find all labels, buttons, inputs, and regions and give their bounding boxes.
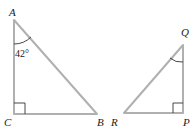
triangle-pqr: Q R P [110,26,190,128]
vertex-label-b: B [97,116,104,128]
vertex-label-p: P [182,116,190,128]
triangle-abc: A C B 42° [4,6,104,128]
vertex-label-r: R [110,116,118,128]
right-angle-marker-c [14,103,25,114]
angle-label-a: 42° [15,48,29,59]
vertex-label-c: C [4,116,12,128]
right-angle-marker-p [173,103,183,113]
angle-arc-a [14,37,31,44]
vertex-label-a: A [8,6,16,18]
vertex-label-q: Q [181,26,189,38]
diagram-canvas: A C B 42° Q R P [0,0,196,133]
triangle-abc-edges [14,20,97,114]
